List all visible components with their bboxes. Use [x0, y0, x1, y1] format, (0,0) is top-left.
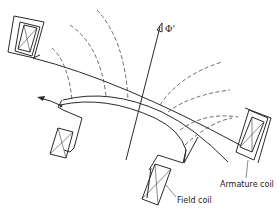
pivot-dot — [60, 105, 63, 108]
right-armature-coil — [236, 108, 271, 163]
top-left-coil — [8, 16, 44, 58]
stator-arc — [33, 58, 240, 145]
armature-arc-bottom — [60, 102, 186, 150]
coil-flux-diagram: Φ' Armature coil Field coil — [0, 0, 280, 214]
flux-axis — [126, 27, 160, 160]
left-coil — [50, 128, 73, 158]
field-coil-label: Field coil — [177, 196, 212, 205]
arrowhead-icon — [37, 96, 45, 101]
armature-coil-label: Armature coil — [220, 180, 274, 189]
flux-label: Φ' — [165, 24, 175, 34]
bottom-yoke — [149, 150, 186, 170]
armature-arc-top — [63, 96, 228, 162]
bottom-field-coil — [142, 164, 171, 205]
field-coil-leader — [166, 185, 176, 197]
armature-end-right — [184, 137, 198, 163]
armature-coil-leader — [246, 160, 248, 178]
